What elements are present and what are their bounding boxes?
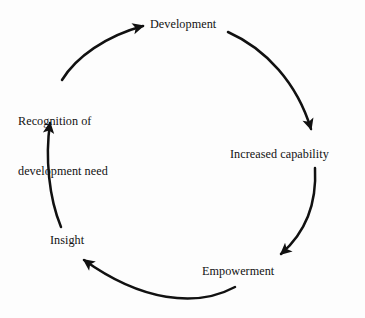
node-label-recognition-of-development-need: Recognition of development need: [18, 80, 108, 212]
arrow-recognition-to-development: [62, 26, 143, 80]
arrow-capability-to-empowerment: [281, 168, 315, 254]
node-label-increased-capability: Increased capability: [230, 146, 329, 163]
arrow-development-to-capability: [228, 32, 311, 129]
diagram-canvas: Development Increased capability Empower…: [0, 0, 365, 318]
node-label-empowerment: Empowerment: [202, 263, 274, 280]
node-label-recognition-line-1: Recognition of: [18, 113, 108, 130]
node-label-insight: Insight: [50, 232, 84, 249]
node-label-recognition-line-2: development need: [18, 163, 108, 180]
node-label-development: Development: [150, 16, 216, 33]
